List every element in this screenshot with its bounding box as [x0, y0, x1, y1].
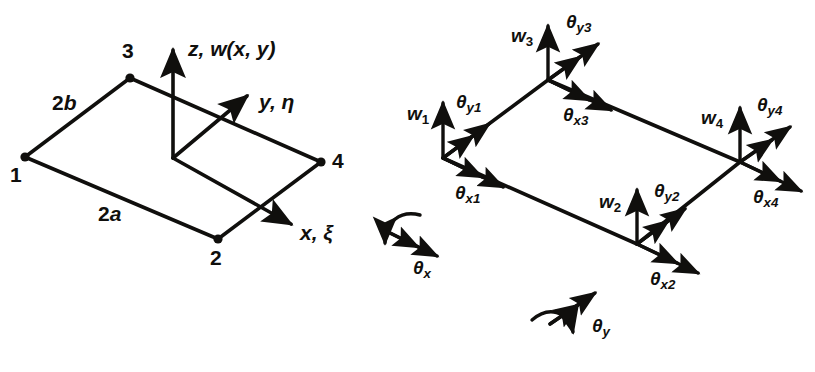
dof-label-w3: w3: [511, 26, 533, 48]
theta-y3-subscript: y3: [577, 20, 592, 35]
theta-y-vector-inner: [550, 305, 578, 324]
w1-subscript: 1: [422, 112, 429, 127]
w3-base: w: [511, 25, 526, 46]
node-label-3: 3: [122, 40, 134, 61]
dof-label-theta-y2: θy2: [654, 181, 679, 203]
theta-x4-base: θ: [753, 186, 764, 207]
theta-x-convention-glyph: [385, 214, 437, 256]
theta-x3-subscript: x3: [574, 113, 589, 128]
w3-subscript: 3: [526, 34, 533, 49]
theta-x1-subscript: x1: [466, 191, 481, 206]
theta-x1-base: θ: [455, 182, 466, 203]
node-label-1: 1: [10, 164, 22, 185]
dof-label-theta-y4: θy4: [757, 95, 782, 117]
node-label-4: 4: [332, 150, 344, 171]
axis-z-symbol: z: [188, 37, 199, 60]
plate-node-dot-2: [213, 234, 222, 243]
theta-y3-base: θ: [566, 11, 577, 32]
plate-node-dot-4: [316, 157, 325, 166]
dimension-2b-number: 2: [52, 91, 64, 114]
axis-label-y: y, η: [259, 91, 294, 112]
dof-label-theta-x1: θx1: [455, 183, 480, 205]
dof-label-w2: w2: [599, 192, 621, 214]
theta-y4-base: θ: [757, 94, 768, 115]
theta-y1-base: θ: [456, 91, 467, 112]
axis-x-rest: , ξ: [312, 221, 333, 244]
plate-node-dot-3: [125, 73, 134, 82]
theta-x3-base: θ: [563, 104, 574, 125]
axis-y-symbol: y: [259, 90, 270, 113]
rotation-label-theta-y: θy: [592, 316, 610, 338]
theta-x1-arrow-inner: [443, 158, 482, 177]
dof-arrows-node-4: [740, 108, 801, 191]
dimension-label-2b: 2b: [52, 92, 77, 113]
dimension-2b-variable: b: [64, 91, 77, 114]
node-label-2: 2: [210, 247, 222, 268]
theta-y-base: θ: [592, 315, 603, 336]
dimension-label-2a: 2a: [98, 203, 121, 224]
theta-y3-arrow-inner: [548, 57, 580, 80]
dof-arrows-node-1: [443, 103, 503, 187]
dof-label-w1: w1: [407, 104, 429, 126]
dof-label-theta-y3: θy3: [566, 12, 591, 34]
theta-y-convention-glyph: [532, 293, 595, 332]
dof-label-theta-y1: θy1: [456, 92, 481, 114]
dimension-2a-number: 2: [98, 202, 110, 225]
plate-node-dot-1: [20, 152, 29, 161]
dof-label-w4: w4: [701, 108, 723, 130]
w4-base: w: [701, 107, 716, 128]
figure-canvas: 1 2 3 4 2b 2a z, w(x, y) y, η x, ξ w1 θy…: [0, 0, 815, 372]
axis-z-rest: , w(x, y): [199, 37, 276, 60]
theta-y4-subscript: y4: [768, 103, 783, 118]
w1-base: w: [407, 103, 422, 124]
w2-base: w: [599, 191, 614, 212]
dimension-2a-variable: a: [110, 202, 122, 225]
x-axis-arrow: [173, 158, 291, 224]
dof-label-theta-x4: θx4: [753, 187, 778, 209]
theta-x-vector-inner: [388, 232, 418, 247]
theta-y2-base: θ: [654, 180, 665, 201]
axis-y-rest: , η: [270, 90, 295, 113]
axis-label-z: z, w(x, y): [188, 38, 276, 59]
w4-subscript: 4: [716, 116, 723, 131]
plate-edge-2-1: [25, 157, 218, 239]
theta-x2-base: θ: [650, 268, 661, 289]
theta-y1-arrow-inner: [443, 136, 473, 158]
theta-y4-arrow-inner: [740, 140, 772, 162]
theta-y-subscript: y: [603, 324, 610, 339]
theta-x4-subscript: x4: [764, 195, 779, 210]
dof-label-theta-x3: θx3: [563, 105, 588, 127]
theta-y1-subscript: y1: [467, 100, 482, 115]
theta-x4-arrow-inner: [740, 162, 780, 181]
w2-subscript: 2: [614, 200, 621, 215]
axis-x-symbol: x: [300, 221, 312, 244]
dof-element-outline: [443, 80, 740, 244]
y-axis-arrow: [173, 96, 247, 158]
rotation-label-theta-x: θx: [413, 258, 431, 280]
dof-arrows-node-3: [548, 26, 611, 110]
theta-y2-arrow-inner: [637, 221, 668, 244]
plate-edge-1-3: [25, 78, 130, 157]
dof-label-theta-x2: θx2: [650, 269, 675, 291]
theta-x-subscript: x: [424, 266, 431, 281]
theta-x3-arrow-inner: [548, 80, 589, 100]
theta-x2-arrow-inner: [637, 244, 677, 263]
theta-x2-subscript: x2: [661, 277, 676, 292]
theta-x-base: θ: [413, 257, 424, 278]
axis-label-x: x, ξ: [300, 222, 333, 243]
theta-y2-subscript: y2: [665, 189, 680, 204]
